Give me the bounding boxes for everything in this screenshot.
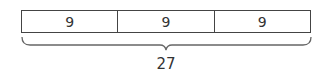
total-label: 27: [146, 55, 186, 73]
